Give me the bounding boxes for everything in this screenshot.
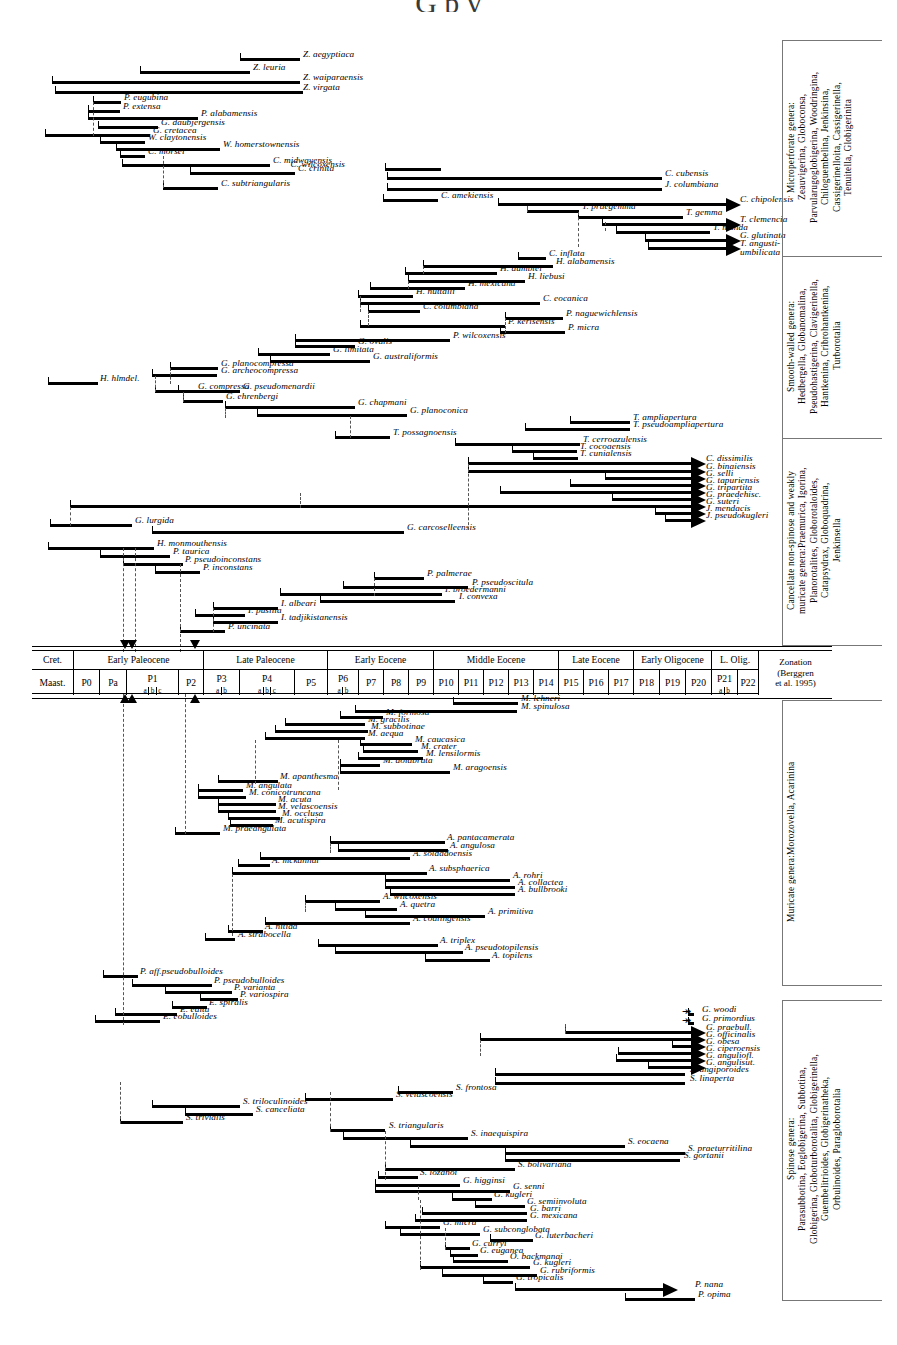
range-bar	[238, 864, 270, 867]
range-bar	[525, 428, 630, 431]
ancestry-connector	[418, 1186, 419, 1200]
range-bar	[152, 531, 404, 534]
taxon-label: G. carcoselleensis	[407, 523, 476, 532]
timescale-zone-cell: P10	[434, 670, 459, 695]
range-bar	[165, 991, 232, 994]
range-bar	[565, 1031, 693, 1034]
range-bar	[155, 571, 200, 574]
taxon-label: G. ehrenbergi	[226, 392, 278, 401]
range-origin-tick	[285, 718, 286, 725]
taxon-label: T. possagnoensis	[393, 428, 457, 437]
range-origin-tick	[335, 903, 336, 910]
range-bar	[495, 1082, 685, 1085]
taxon-label: C. columbiana	[423, 302, 478, 311]
range-origin-tick	[425, 954, 426, 961]
range-origin-tick	[45, 129, 46, 136]
range-origin-tick	[335, 431, 336, 438]
range-bar	[618, 1052, 693, 1055]
taxon-label: P. nana	[695, 1280, 723, 1289]
genus-group-rule	[782, 700, 882, 701]
taxon-label: Z. waiparaensis	[303, 73, 363, 82]
range-bar	[425, 959, 490, 962]
taxon-label: A. strabocella	[238, 930, 291, 939]
range-bar	[232, 872, 427, 875]
range-bar	[70, 505, 693, 508]
range-bar	[195, 614, 245, 617]
range-bar	[385, 168, 441, 171]
taxon-label: I. albeari	[281, 599, 316, 608]
timescale-subzone: b	[264, 687, 272, 695]
range-bar	[360, 743, 412, 746]
range-bar	[198, 789, 243, 792]
range-origin-tick	[387, 183, 388, 190]
taxon-label: M. aragoensis	[453, 763, 507, 772]
range-bar	[602, 223, 728, 226]
timescale-zone-cell: P11	[459, 670, 484, 695]
range-origin-tick	[218, 775, 219, 782]
taxon-label: S. lozanoi	[420, 1168, 457, 1177]
taxon-label: H. nuttalli	[416, 287, 455, 296]
range-bar	[453, 702, 518, 705]
open-arrow-icon: ↠	[682, 1015, 691, 1026]
taxon-label: Z. leuria	[253, 63, 286, 72]
range-bar	[645, 239, 728, 242]
ancestry-connector	[385, 1131, 386, 1180]
timescale-zone-cell: P12	[484, 670, 509, 695]
range-origin-tick	[122, 159, 123, 166]
range-bar	[48, 382, 98, 385]
range-origin-tick	[475, 1200, 476, 1207]
timescale-subzone: b	[149, 687, 157, 695]
range-origin-tick	[205, 933, 206, 940]
timescale: Cret.Early PaleoceneLate PaleoceneEarly …	[32, 650, 832, 694]
range-bar	[665, 519, 693, 522]
genus-group-rule	[782, 985, 882, 986]
range-origin-tick	[442, 1269, 443, 1276]
taxon-label: A. topilens	[492, 951, 532, 960]
taxon-label: G. planoconica	[410, 406, 468, 415]
range-arrowhead-icon	[691, 514, 706, 528]
taxon-label: E. spiralis	[209, 998, 248, 1007]
timescale-epoch-cell: Zonation(Berggrenet al. 1995)	[759, 651, 832, 695]
range-origin-tick	[330, 836, 331, 843]
taxon-label: I. convexa	[459, 592, 498, 601]
ancestry-connector	[180, 564, 181, 652]
timescale-zone-cell: P20	[686, 670, 712, 695]
range-origin-tick	[505, 1154, 506, 1161]
range-bar	[175, 832, 220, 835]
ancestry-connector	[213, 608, 214, 632]
range-origin-tick	[358, 752, 359, 759]
range-origin-tick	[415, 1214, 416, 1221]
range-arrowhead-icon	[726, 198, 741, 212]
range-origin-tick	[422, 1207, 423, 1214]
range-origin-tick	[385, 1221, 386, 1228]
range-origin-tick	[375, 1185, 376, 1192]
ancestry-connector	[163, 156, 164, 188]
ancestry-connector	[468, 464, 469, 530]
taxon-label: M. lensilormis	[426, 749, 480, 758]
range-origin-tick	[450, 1249, 451, 1256]
range-bar	[612, 498, 693, 501]
timescale-zone-cell: P19	[660, 670, 686, 695]
genus-group-rule	[782, 1000, 882, 1001]
range-origin-tick	[320, 595, 321, 602]
range-bar	[518, 257, 546, 260]
genus-group-label: Spinose genera: Parasubbotina, Eoglobige…	[786, 1006, 882, 1292]
taxon-label: A. bullbrooki	[518, 885, 567, 894]
range-origin-tick	[103, 970, 104, 977]
taxon-label: G. mexicana	[530, 1211, 578, 1220]
taxon-label: C. eocanica	[543, 294, 588, 303]
taxon-label: S. triangularis	[389, 1121, 444, 1130]
ancestry-connector	[155, 376, 156, 392]
taxon-label: M. spinulosa	[521, 702, 570, 711]
timescale-zone-cell: P7	[359, 670, 384, 695]
genus-group-bracket	[782, 700, 783, 985]
taxon-label: M. aequa	[368, 729, 404, 738]
ancestry-connector	[527, 206, 528, 212]
range-origin-tick	[52, 76, 53, 83]
range-origin-tick	[383, 194, 384, 201]
timescale-epoch-cell: Early Oligocene	[634, 651, 712, 669]
range-origin-tick	[360, 320, 361, 327]
range-origin-tick	[400, 1228, 401, 1235]
ancestry-connector	[300, 493, 301, 508]
chart-rule	[32, 698, 832, 699]
